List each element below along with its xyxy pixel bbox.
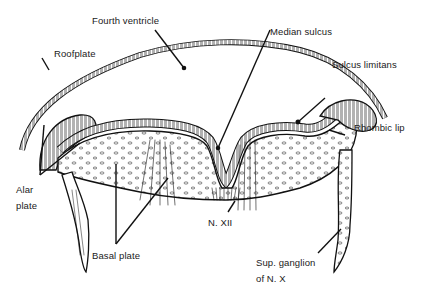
diagram-figure: Fourth ventricle Median sulcus Roofplate…: [0, 0, 423, 288]
hindbrain-section-drawing: [0, 0, 423, 288]
label-median-sulcus: Median sulcus: [270, 25, 332, 39]
left-ganglion: [62, 172, 89, 272]
label-alar-plate-line1: Alar: [16, 183, 33, 197]
leader-n-xii: [228, 201, 235, 212]
label-basal-plate: Basal plate: [92, 249, 140, 263]
label-sup-ganglion-line1: Sup. ganglion: [256, 256, 315, 270]
leader-roofplate: [42, 58, 49, 70]
label-fourth-ventricle: Fourth ventricle: [92, 14, 159, 28]
label-n-xii: N. XII: [208, 216, 232, 230]
label-sulcus-limitans: Sulcus limitans: [332, 58, 397, 72]
label-rhombic-lip: Rhombic lip: [354, 121, 405, 135]
label-alar-plate-line2: plate: [16, 199, 37, 213]
leader-sulcus-limitans: [298, 98, 325, 122]
label-roofplate: Roofplate: [54, 47, 96, 61]
label-sup-ganglion-line2: of N. X: [256, 272, 286, 286]
